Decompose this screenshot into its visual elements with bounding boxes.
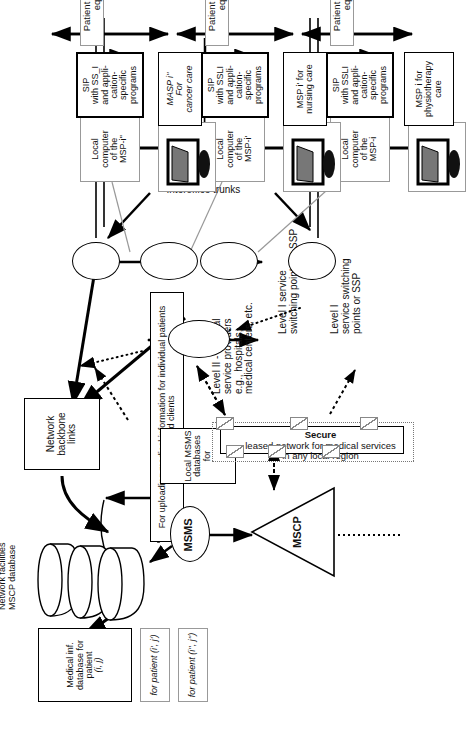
gateway-icon <box>226 445 244 458</box>
gateway-icon <box>322 445 340 458</box>
premises-label-text-site-3: Patient premises PC equipment <box>82 0 102 45</box>
pc-icon-site-3 <box>162 128 212 186</box>
msp-label-text-site-3: MASP i'' For cancer care <box>166 65 194 112</box>
msp-label-box-site-3: MASP i'' For cancer care <box>158 52 202 126</box>
patient-db-primary-text: Medical inf. database for patient (i, j) <box>66 631 104 699</box>
local-computer-box-site-3: Local computer of the MSP-i'' <box>80 116 140 182</box>
ssp-node <box>200 242 258 280</box>
premises-label-box-site-2: Patient premises PC equipment <box>205 0 229 46</box>
local-computer-text-site-2: Local computer of the MSP-i' <box>216 130 254 168</box>
patient-db-third: for patient (i'', j'') <box>178 628 208 702</box>
gateway-icon <box>360 417 378 430</box>
gateway-icon <box>216 417 234 430</box>
pc-icon-site-1 <box>412 128 462 186</box>
local-computer-text-site-3: Local computer of the MSP-i'' <box>91 130 129 168</box>
premises-label-box-site-1: Patient premises PC equipment <box>330 0 354 46</box>
sip-box-site-1: SIP with SSLI and appli- cation- specifi… <box>326 52 394 118</box>
mscp-label: MSCP <box>292 488 304 576</box>
patient-db-second-text: for patient (i', j') <box>150 635 159 696</box>
gateway-icon <box>268 445 286 458</box>
local-msms-db-text: Local MSMS databases for <box>184 429 212 483</box>
sip-text-site-2: SIP with SSLI and appli- cation- specifi… <box>207 65 264 105</box>
secure-network-label: Secure leased network for medical servic… <box>229 420 413 461</box>
mscp-database-stack <box>34 540 144 622</box>
premises-label-text-site-2: Patient premises PC equipment <box>207 0 227 45</box>
msp-label-box-site-1: MSP i for physiotherapy care <box>404 52 454 126</box>
ssp-node <box>168 320 230 358</box>
premises-label-box-site-3: Patient premises PC equipment <box>80 0 104 46</box>
db-stack-label: Network facilities MSCP database <box>0 480 17 610</box>
msms-label: MSMS <box>183 508 195 562</box>
level1-label-bottom: Level I service switching points or SSP <box>330 214 362 334</box>
sip-box-site-3: SIP with SS_I and appli- cation- specifi… <box>76 52 144 118</box>
sip-text-site-3: SIP with SS_I and appli- cation- specifi… <box>82 65 139 105</box>
local-computer-text-site-1: Local computer of the MSP-i <box>341 130 379 168</box>
sip-box-site-2: SIP with SSLI and appli- cation- specifi… <box>201 52 269 118</box>
msp-label-text-site-1: MSP i for physiotherapy care <box>415 61 443 117</box>
ssp-node <box>140 242 198 280</box>
patient-db-second: for patient (i', j') <box>140 628 170 702</box>
patient-db-third-text: for patient (i'', j'') <box>188 633 197 697</box>
ssp-node <box>72 242 120 280</box>
msp-label-text-site-2: MSP i' for nursing care <box>296 64 315 114</box>
sip-text-site-1: SIP with SSLI and appli- cation- specifi… <box>332 65 389 105</box>
pc-icon-site-2 <box>287 128 337 186</box>
ssp-node <box>288 242 336 280</box>
network-backbone-text: Network backbone links <box>46 399 78 469</box>
premises-label-text-site-1: Patient premises PC equipment <box>332 0 352 45</box>
network-backbone-box: Network backbone links <box>24 398 100 470</box>
patient-db-primary: Medical inf. database for patient (i, j) <box>38 628 132 702</box>
gateway-icon <box>290 417 308 430</box>
msp-label-box-site-2: MSP i' for nursing care <box>283 52 327 126</box>
